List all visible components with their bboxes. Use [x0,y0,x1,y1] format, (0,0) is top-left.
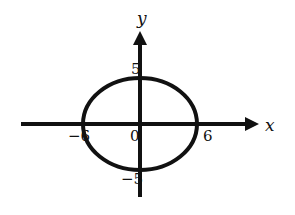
x-tick-6: 6 [203,127,213,145]
y-tick-neg5: −5 [121,170,143,188]
x-tick-neg6: −6 [68,127,90,145]
x-axis-label: x [265,115,275,135]
plot-area: y x 5 −6 0 6 −5 [0,0,295,215]
x-axis-arrow-icon [245,117,259,131]
origin-label: 0 [130,127,140,145]
y-tick-5: 5 [131,60,141,78]
ellipse-graph: y x 5 −6 0 6 −5 [0,0,295,215]
y-axis-arrow-icon [133,31,147,45]
y-axis-label: y [136,8,147,28]
